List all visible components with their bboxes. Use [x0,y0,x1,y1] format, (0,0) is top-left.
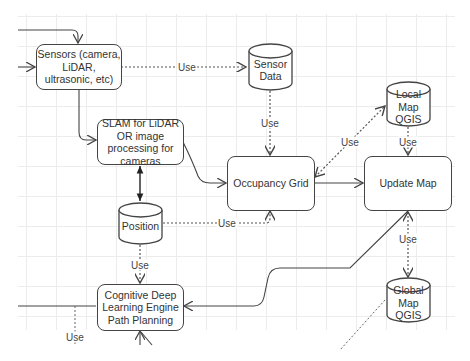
node-occupancy-grid[interactable]: Occupancy Grid [227,156,315,211]
edge-label-sensors-sensor-data: Use [177,62,197,73]
edge-bottom-diag-to-cognitive [141,332,152,345]
edge-external-to-sensors-top [18,30,78,43]
edge-global-map-down [340,300,385,350]
node-local-map[interactable]: Local Map QGIS [386,81,431,127]
node-slam[interactable]: SLAM for LiDAR OR image processing for c… [97,119,184,165]
node-local-map-label: Local Map QGIS [386,82,431,126]
node-sensor-data[interactable]: Sensor Data [248,43,293,91]
node-sensors-label: Sensors (camera, LiDAR, ultrasonic, etc) [37,48,121,86]
node-position-label: Position [122,214,159,233]
node-occupancy-grid-label: Occupancy Grid [233,177,308,190]
node-update-map[interactable]: Update Map [364,156,452,211]
edge-sensors-to-slam [79,90,96,140]
node-global-map-label: Global Map QGIS [386,278,431,322]
edge-label-position-occupancy: Use [217,218,237,229]
node-position[interactable]: Position [118,202,163,245]
edge-label-occupancy-local-map: Use [340,137,360,148]
edge-label-sensor-data-occupancy: Use [260,118,280,129]
node-sensors[interactable]: Sensors (camera, LiDAR, ultrasonic, etc) [36,44,122,90]
edge-label-local-map-update: Use [398,137,418,148]
node-global-map[interactable]: Global Map QGIS [386,277,431,323]
node-cognitive-label: Cognitive Deep Learning Engine Path Plan… [98,289,183,327]
edge-label-position-cognitive: Use [130,260,150,271]
edge-slam-to-occupancy [183,142,226,183]
node-sensor-data-label: Sensor Data [248,52,293,83]
diagram-canvas: Sensors (camera, LiDAR, ultrasonic, etc)… [0,0,470,361]
node-update-map-label: Update Map [379,177,436,190]
edge-label-cognitive-left-down: Use [65,332,85,343]
node-cognitive[interactable]: Cognitive Deep Learning Engine Path Plan… [97,284,184,331]
node-slam-label: SLAM for LiDAR OR image processing for c… [98,117,183,167]
edge-label-update-global-map: Use [398,234,418,245]
